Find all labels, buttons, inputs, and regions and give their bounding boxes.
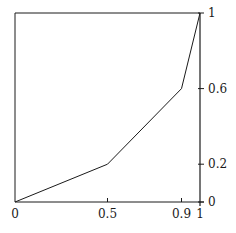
line-chart: 00.50.91 00.20.61: [0, 0, 236, 233]
x-tick-label: 0.5: [98, 207, 117, 221]
y-axis-ticks: 00.20.61: [198, 6, 227, 209]
x-tick-label: 0.9: [172, 207, 191, 221]
x-tick-label: 0: [11, 207, 19, 221]
y-tick-label: 0.2: [208, 157, 227, 171]
plot-frame: [15, 13, 204, 206]
x-axis-ticks: 00.50.91: [11, 198, 204, 221]
y-tick-label: 1: [208, 6, 216, 20]
data-series: [15, 13, 200, 202]
x-tick-label: 1: [196, 207, 204, 221]
series-line: [15, 13, 200, 202]
y-tick-label: 0: [208, 195, 216, 209]
y-tick-label: 0.6: [208, 82, 227, 96]
